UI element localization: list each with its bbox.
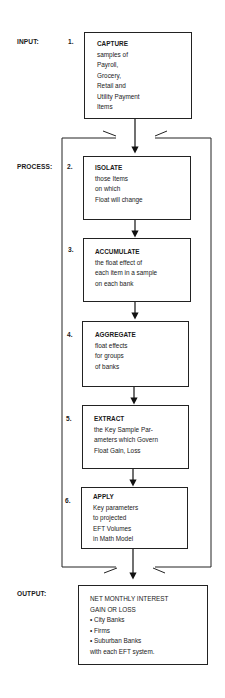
step-text: in Math Model — [93, 534, 138, 545]
step-title: APPLY — [93, 492, 138, 503]
step-text: to projected — [93, 513, 138, 524]
step-number-3: 3. — [68, 246, 74, 253]
output-title-line1: NET MONTHLY INTEREST — [90, 594, 168, 605]
output-bullet-suburban-banks: • Suburban Banks — [90, 636, 168, 647]
step-title: AGGREGATE — [95, 330, 136, 341]
output-box: NET MONTHLY INTEREST GAIN OR LOSS • City… — [78, 585, 208, 665]
step-box-isolate: ISOLATE those Items on which Float will … — [83, 156, 191, 220]
step-title: CAPTURE — [97, 39, 140, 50]
step-title: EXTRACT — [94, 414, 158, 425]
step-text: samples of — [97, 50, 140, 61]
stage-label-input: INPUT: — [17, 38, 39, 45]
step-text: the Key Sample Par- — [94, 425, 158, 436]
step-box-capture: CAPTURE samples of Payroll, Grocery, Ret… — [84, 32, 192, 119]
step-text: the float effect of — [95, 258, 157, 269]
step-number-5: 5. — [66, 415, 72, 422]
step-text: of banks — [95, 362, 136, 373]
step-text: Retail and — [97, 81, 140, 92]
step-number-2: 2. — [67, 163, 73, 170]
step-text: on each bank — [95, 279, 157, 290]
step-title: ISOLATE — [95, 163, 143, 174]
step-text: Items — [97, 102, 140, 113]
step-box-accumulate: ACCUMULATE the float effect of each item… — [83, 238, 191, 302]
step-text: EFT Volumes — [93, 524, 138, 535]
step-number-1: 1. — [68, 38, 74, 45]
step-number-4: 4. — [67, 331, 73, 338]
step-text: Utility Payment — [97, 92, 140, 103]
step-text: for groups — [95, 351, 136, 362]
step-box-extract: EXTRACT the Key Sample Par- ameters whic… — [82, 405, 189, 469]
step-text: Key parameters — [93, 503, 138, 514]
step-text: Float Gain, Loss — [94, 446, 158, 457]
output-bullet-firms: • Firms — [90, 626, 168, 637]
step-text: ameters which Govern — [94, 435, 158, 446]
output-bullet-city-banks: • City Banks — [90, 615, 168, 626]
step-text: Payroll, — [97, 60, 140, 71]
step-text: Grocery, — [97, 71, 140, 82]
step-text: each item in a sample — [95, 268, 157, 279]
step-title: ACCUMULATE — [95, 247, 157, 258]
output-title-line2: GAIN OR LOSS — [90, 605, 168, 616]
output-footer: with each EFT system. — [90, 647, 168, 658]
step-text: Float will change — [95, 195, 143, 206]
step-text: on which — [95, 184, 143, 195]
step-box-apply: APPLY Key parameters to projected EFT Vo… — [81, 487, 188, 549]
step-text: those Items — [95, 174, 143, 185]
step-box-aggregate: AGGREGATE float effects for groups of ba… — [82, 321, 189, 387]
step-text: float effects — [95, 341, 136, 352]
step-number-6: 6. — [65, 497, 71, 504]
stage-label-process: PROCESS: — [17, 163, 52, 170]
stage-label-output: OUTPUT: — [17, 590, 46, 597]
